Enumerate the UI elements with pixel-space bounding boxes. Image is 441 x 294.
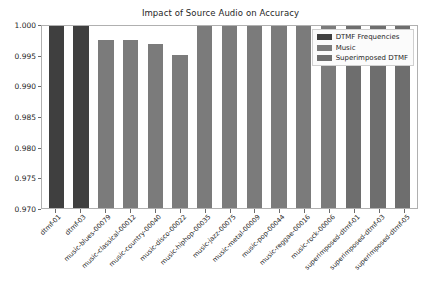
bar xyxy=(271,25,286,208)
legend-item: DTMF Frequencies xyxy=(317,33,408,41)
bar xyxy=(172,55,187,208)
bar xyxy=(197,26,212,208)
x-tick-label: dtmf-03 xyxy=(64,213,88,237)
x-tick-mark xyxy=(130,209,131,213)
bar xyxy=(222,25,237,208)
bar-slot xyxy=(44,26,69,208)
x-axis: dtmf-01dtmf-03music-blues-00079music-cla… xyxy=(41,209,418,294)
x-tick-mark xyxy=(254,209,255,213)
y-tick-label: 1.000 xyxy=(15,21,36,30)
bar-slot xyxy=(217,26,242,208)
x-tick-mark xyxy=(205,209,206,213)
bar-slot xyxy=(168,26,193,208)
bar xyxy=(247,25,262,208)
bar xyxy=(123,40,138,208)
x-tick-mark xyxy=(155,209,156,213)
x-tick-mark xyxy=(379,209,380,213)
x-tick-mark xyxy=(354,209,355,213)
x-tick-label: music-jazz-00075 xyxy=(190,213,237,260)
legend-swatch-icon xyxy=(317,34,332,40)
x-tick-mark xyxy=(329,209,330,213)
legend-item: Superimposed DTMF xyxy=(317,54,408,62)
legend-item: Music xyxy=(317,44,408,52)
bar xyxy=(148,44,163,208)
legend-label: Music xyxy=(336,44,356,52)
x-tick-mark xyxy=(180,209,181,213)
chart-legend: DTMF FrequenciesMusicSuperimposed DTMF xyxy=(312,29,414,66)
bar-slot xyxy=(69,26,94,208)
x-tick-mark xyxy=(304,209,305,213)
x-tick-label: music-pop-00044 xyxy=(240,213,286,259)
bar-slot xyxy=(118,26,143,208)
bar xyxy=(98,40,113,208)
x-tick-mark xyxy=(404,209,405,213)
y-axis: 0.9700.9750.9800.9850.9900.9951.000 xyxy=(0,25,41,209)
legend-swatch-icon xyxy=(317,45,332,51)
bar xyxy=(296,25,311,208)
bar xyxy=(49,26,64,208)
bar-slot xyxy=(192,26,217,208)
y-tick-label: 0.970 xyxy=(15,205,36,214)
y-tick-label: 0.985 xyxy=(15,113,36,122)
legend-label: DTMF Frequencies xyxy=(336,33,400,41)
plot-area: DTMF FrequenciesMusicSuperimposed DTMF xyxy=(41,25,418,209)
bar-slot xyxy=(93,26,118,208)
legend-label: Superimposed DTMF xyxy=(336,54,408,62)
y-tick-label: 0.990 xyxy=(15,82,36,91)
x-tick-label: music-rock-00006 xyxy=(289,213,337,261)
x-tick-mark xyxy=(230,209,231,213)
bar-slot xyxy=(267,26,292,208)
legend-swatch-icon xyxy=(317,55,332,61)
bar-slot xyxy=(143,26,168,208)
y-tick-label: 0.975 xyxy=(15,174,36,183)
chart-figure: Impact of Source Audio on Accuracy 0.970… xyxy=(0,0,441,294)
bar-slot xyxy=(242,26,267,208)
y-tick-label: 0.995 xyxy=(15,51,36,60)
x-tick-label: dtmf-01 xyxy=(39,213,63,237)
y-tick-label: 0.980 xyxy=(15,143,36,152)
bar xyxy=(73,25,88,208)
chart-title: Impact of Source Audio on Accuracy xyxy=(0,8,441,18)
